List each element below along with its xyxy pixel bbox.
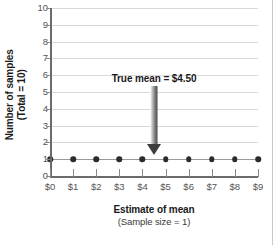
- y-tick-mark: [46, 8, 50, 9]
- x-tick-mark: [189, 169, 190, 177]
- data-point: [186, 156, 192, 162]
- true-mean-arrow-head: [147, 144, 161, 155]
- x-tick-label: $5: [160, 182, 171, 192]
- chart-figure: Number of samples (Total = 10) 012345678…: [0, 0, 273, 245]
- x-tick-label: $7: [206, 182, 217, 192]
- data-point: [117, 156, 123, 162]
- y-tick-mark: [46, 109, 50, 110]
- x-tick-mark: [73, 169, 74, 177]
- y-tick-label: 4: [28, 104, 48, 114]
- x-tick-mark: [166, 169, 167, 177]
- y-axis-line: [50, 8, 52, 177]
- true-mean-arrow-shaft: [151, 86, 158, 144]
- x-tick-label: $4: [137, 182, 148, 192]
- y-tick-mark: [46, 159, 50, 160]
- y-axis-title-sub: (Total = 10): [16, 49, 28, 140]
- y-tick-label: 8: [28, 37, 48, 47]
- y-tick-label: 0: [28, 171, 48, 181]
- y-tick-label: 6: [28, 70, 48, 80]
- y-tick-mark: [46, 58, 50, 59]
- y-axis-tick-labels: 012345678910: [28, 8, 48, 176]
- y-tick-mark: [46, 142, 50, 143]
- y-tick-mark: [46, 126, 50, 127]
- y-tick-label: 7: [28, 54, 48, 64]
- gridline: [50, 25, 258, 26]
- y-tick-label: 2: [28, 138, 48, 148]
- x-tick-label: $2: [91, 182, 102, 192]
- x-tick-label: $1: [68, 182, 79, 192]
- data-point: [140, 156, 146, 162]
- x-tick-label: $9: [253, 182, 264, 192]
- gridline: [50, 42, 258, 43]
- x-axis-tick-labels: $0$1$2$3$4$5$6$7$8$9: [50, 182, 258, 196]
- y-tick-label: 10: [28, 3, 48, 13]
- y-tick-label: 3: [28, 121, 48, 131]
- y-tick-mark: [46, 75, 50, 76]
- x-tick-mark: [96, 169, 97, 177]
- data-point: [70, 156, 76, 162]
- true-mean-annotation-label: True mean = $4.50: [112, 73, 197, 84]
- x-tick-label: $6: [183, 182, 194, 192]
- x-tick-mark: [119, 169, 120, 177]
- y-tick-mark: [46, 42, 50, 43]
- x-tick-mark: [50, 169, 51, 177]
- data-point: [93, 156, 99, 162]
- y-tick-label: 1: [28, 154, 48, 164]
- x-tick-mark: [258, 169, 259, 177]
- data-point: [232, 156, 238, 162]
- x-axis-title: Estimate of mean (Sample size = 1): [50, 203, 258, 229]
- x-tick-mark: [235, 169, 236, 177]
- x-tick-mark: [212, 169, 213, 177]
- data-point: [255, 156, 261, 162]
- y-tick-mark: [46, 25, 50, 26]
- series-line: [50, 159, 258, 160]
- y-tick-label: 9: [28, 20, 48, 30]
- x-tick-label: $8: [230, 182, 241, 192]
- y-tick-mark: [46, 92, 50, 93]
- x-axis-title-main: Estimate of mean: [50, 203, 258, 216]
- y-axis-title-main: Number of samples: [4, 49, 16, 140]
- gridline: [50, 8, 258, 9]
- x-tick-label: $3: [114, 182, 125, 192]
- y-tick-label: 5: [28, 87, 48, 97]
- x-axis-title-sub: (Sample size = 1): [50, 216, 258, 229]
- x-axis-line: [50, 176, 258, 178]
- gridline: [50, 58, 258, 59]
- x-tick-mark: [142, 169, 143, 177]
- data-point: [209, 156, 215, 162]
- data-point: [163, 156, 169, 162]
- plot-area: True mean = $4.50: [50, 8, 258, 176]
- x-tick-label: $0: [45, 182, 56, 192]
